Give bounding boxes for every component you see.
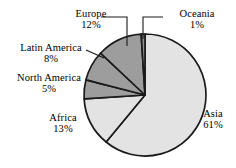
slice-label-oceania: Oceania 1% bbox=[166, 8, 228, 31]
slice-label-africa-name: Africa bbox=[36, 112, 90, 123]
slice-label-latin-america-name: Latin America bbox=[10, 42, 92, 53]
slice-label-asia: Asia 61% bbox=[192, 108, 234, 131]
slice-label-north-america: North America 5% bbox=[4, 72, 94, 95]
slice-label-north-america-value: 5% bbox=[4, 83, 94, 94]
slice-label-oceania-name: Oceania bbox=[166, 8, 228, 19]
slice-label-europe-value: 12% bbox=[60, 19, 122, 30]
pie-chart-figure: Europe 12% Oceania 1% Latin America 8% N… bbox=[0, 0, 236, 168]
slice-label-oceania-value: 1% bbox=[166, 19, 228, 30]
slice-label-asia-name: Asia bbox=[192, 108, 234, 119]
slice-label-latin-america: Latin America 8% bbox=[10, 42, 92, 65]
slice-label-europe: Europe 12% bbox=[60, 8, 122, 31]
slice-label-north-america-name: North America bbox=[4, 72, 94, 83]
slice-label-europe-name: Europe bbox=[60, 8, 122, 19]
slice-label-africa-value: 13% bbox=[36, 123, 90, 134]
slice-label-asia-value: 61% bbox=[192, 119, 234, 130]
slice-label-latin-america-value: 8% bbox=[10, 53, 92, 64]
slice-label-africa: Africa 13% bbox=[36, 112, 90, 135]
